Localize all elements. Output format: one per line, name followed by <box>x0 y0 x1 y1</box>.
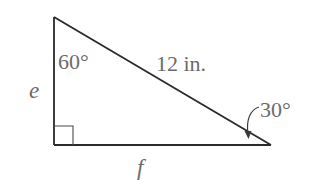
angle-arrow-icon <box>247 107 259 134</box>
hypotenuse-line <box>54 17 271 145</box>
angle-top-label: 60° <box>58 49 89 74</box>
right-angle-marker <box>54 126 73 145</box>
hypotenuse-label: 12 in. <box>156 51 206 76</box>
angle-right-label: 30° <box>260 97 291 122</box>
side-e-label: e <box>29 78 39 103</box>
arrowhead-icon <box>245 131 252 139</box>
right-triangle-diagram: 60° 12 in. 30° e f <box>0 0 318 189</box>
side-f-label: f <box>137 155 147 180</box>
